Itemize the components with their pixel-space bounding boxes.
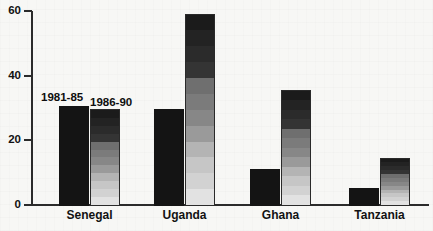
series-annotation-1986-90: 1986-90 <box>90 97 132 109</box>
y-tick-mark <box>24 204 32 206</box>
y-tick-mark <box>24 10 32 12</box>
bar-band <box>186 62 214 78</box>
bar-band <box>186 94 214 110</box>
bar-band <box>186 46 214 62</box>
bar-band <box>91 110 119 118</box>
bar-band <box>186 110 214 126</box>
bar-band <box>91 181 119 189</box>
bar-band <box>282 100 310 110</box>
bar-band <box>186 78 214 94</box>
bar-band <box>91 189 119 197</box>
bar-band <box>186 157 214 173</box>
category-label-uganda: Uganda <box>136 209 233 222</box>
bar-1981-85-tanzania <box>349 188 379 206</box>
y-tick-mark <box>24 75 32 77</box>
bar-band <box>186 126 214 142</box>
bar-band <box>91 118 119 126</box>
bar-band <box>91 126 119 134</box>
bar-band <box>186 173 214 189</box>
bar-band <box>282 138 310 148</box>
bar-band <box>381 201 409 205</box>
bar-band <box>186 15 214 31</box>
bar-band <box>91 150 119 158</box>
bar-band <box>282 186 310 196</box>
bar-1986-90-ghana <box>281 90 311 206</box>
bar-band <box>91 165 119 173</box>
y-tick-mark <box>24 139 32 141</box>
bar-1986-90-tanzania <box>380 158 410 207</box>
bar-1981-85-uganda <box>154 109 184 206</box>
y-tick-label: 0 <box>0 199 21 211</box>
bar-band <box>282 167 310 177</box>
chart-screenshot: 6040200 SenegalUgandaGhanaTanzania 1981-… <box>0 0 433 231</box>
bar-band <box>91 197 119 205</box>
bar-band <box>91 134 119 142</box>
bar-band <box>282 176 310 186</box>
y-axis-line <box>31 11 33 206</box>
bar-1981-85-ghana <box>250 169 280 206</box>
bar-band <box>282 157 310 167</box>
bar-band <box>282 119 310 129</box>
bar-band <box>282 129 310 139</box>
bar-band <box>91 173 119 181</box>
bar-band <box>91 142 119 150</box>
bar-band <box>91 157 119 165</box>
bar-chart-plot: 6040200 SenegalUgandaGhanaTanzania 1981-… <box>0 0 433 231</box>
bar-band <box>282 91 310 101</box>
bar-band <box>282 148 310 158</box>
category-label-tanzania: Tanzania <box>331 209 428 222</box>
category-label-ghana: Ghana <box>232 209 329 222</box>
bar-band <box>282 110 310 120</box>
bar-1981-85-senegal <box>59 106 89 206</box>
series-annotation-1981-85: 1981-85 <box>41 92 83 104</box>
bar-band <box>186 30 214 46</box>
y-tick-label: 20 <box>0 134 21 146</box>
bar-band <box>186 142 214 158</box>
y-tick-label: 60 <box>0 5 21 17</box>
category-label-senegal: Senegal <box>41 209 138 222</box>
bar-band <box>282 195 310 205</box>
bar-band <box>186 189 214 205</box>
y-tick-label: 40 <box>0 70 21 82</box>
bar-1986-90-senegal <box>90 109 120 206</box>
bar-1986-90-uganda <box>185 14 215 206</box>
